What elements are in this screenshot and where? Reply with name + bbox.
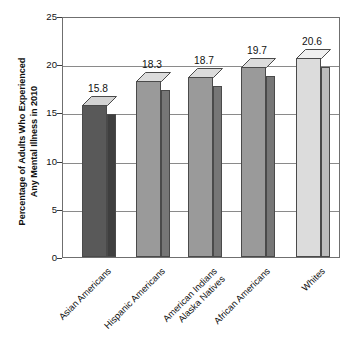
bar-value-label: 18.3 [131,59,173,70]
bar [188,77,213,257]
y-tick-label: 5 [17,205,57,215]
bar-chart: Percentage of Adults Who Experienced Any… [0,0,355,354]
bar-side-face [266,76,275,257]
bar-side-face [107,114,116,257]
bar-value-label: 18.7 [183,55,225,66]
bar-front-face [241,67,266,257]
bar-front-face [188,77,213,257]
x-category-label: Whites [228,266,327,354]
bar-value-label: 15.8 [77,83,119,94]
bar-top-face [136,72,170,81]
bar-side-face [161,90,170,257]
bar-top-face [188,68,222,77]
y-tick-label: 0 [17,253,57,263]
y-axis-title: Percentage of Adults Who Experienced Any… [17,17,40,267]
bar [241,67,266,257]
y-tick-label: 25 [17,12,57,22]
plot-area [62,17,340,258]
bar [136,81,161,257]
bar-value-label: 19.7 [236,45,278,56]
bar-front-face [136,81,161,257]
y-tick-label: 15 [17,108,57,118]
bar-top-face [241,58,275,67]
bar-side-face [321,67,330,257]
bar [82,105,107,257]
y-tick-label: 20 [17,60,57,70]
bar-top-face [82,96,116,105]
y-tick-mark [57,258,62,259]
bar-front-face [296,58,321,257]
bar-top-face [296,49,330,58]
bar-side-face [213,86,222,257]
bar-value-label: 20.6 [291,36,333,47]
bar-front-face [82,105,107,257]
bar [296,58,321,257]
y-tick-label: 10 [17,157,57,167]
x-category-label: American Indians Alaska Natives [120,266,227,354]
